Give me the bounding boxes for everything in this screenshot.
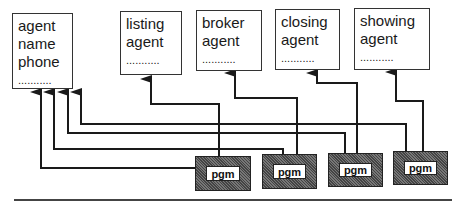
broker-line-1: broker xyxy=(202,14,256,32)
wire-pgm1-listing xyxy=(151,79,219,157)
showing-agent-box: showing agent ........... xyxy=(354,8,430,70)
wire-pgm4-showing xyxy=(396,72,423,151)
listing-agent-box: listing agent ........... xyxy=(120,11,182,75)
showing-line-2: agent xyxy=(360,30,424,48)
agent-line-1: agent xyxy=(18,17,67,35)
showing-line-1: showing xyxy=(360,12,424,30)
closing-line-1: closing xyxy=(281,13,334,31)
listing-line-2: agent xyxy=(126,33,176,51)
program-box-3: pgm xyxy=(328,153,383,187)
broker-line-2: agent xyxy=(202,32,256,50)
agent-line-2: name xyxy=(18,35,67,53)
closing-dots: ........... xyxy=(281,51,334,65)
showing-dots: ........... xyxy=(360,50,424,64)
program-label-1: pgm xyxy=(206,166,240,181)
broker-dots: ........... xyxy=(202,52,256,66)
program-label-4: pgm xyxy=(404,161,437,175)
listing-dots: ........... xyxy=(126,53,176,67)
program-label-3: pgm xyxy=(339,163,372,177)
wire-pgm3-agent xyxy=(68,92,345,153)
bottom-rule xyxy=(14,199,452,201)
program-box-1: pgm xyxy=(195,156,251,191)
closing-line-2: agent xyxy=(281,31,334,49)
wire-pgm2-broker xyxy=(235,73,297,154)
program-label-2: pgm xyxy=(273,164,306,179)
agent-dots: ........... xyxy=(18,73,67,87)
wire-pgm3-closing xyxy=(317,73,357,153)
closing-agent-box: closing agent ........... xyxy=(275,9,340,70)
agent-line-3: phone xyxy=(18,53,67,71)
broker-agent-box: broker agent ........... xyxy=(196,10,262,71)
listing-line-1: listing xyxy=(126,15,176,33)
program-box-2: pgm xyxy=(262,154,317,189)
program-box-4: pgm xyxy=(393,151,448,185)
agent-entity-box: agent name phone ........... xyxy=(12,13,73,89)
